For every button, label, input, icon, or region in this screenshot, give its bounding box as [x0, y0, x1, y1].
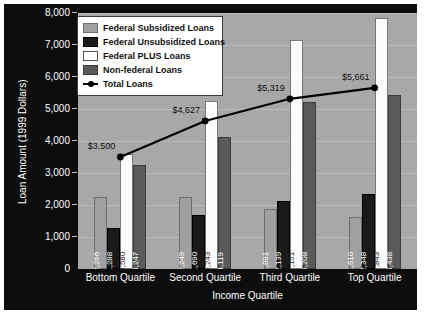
bar-value-label: $4,119	[217, 252, 225, 269]
chart-figure: Loan Amount (1999 Dollars) 01,0002,0003,…	[0, 0, 427, 323]
chart-legend: Federal Subsidized Loans Federal Unsubsi…	[77, 16, 223, 96]
chart-frame: Loan Amount (1999 Dollars) 01,0002,0003,…	[4, 4, 417, 310]
x-axis-tick-label: Bottom Quartile	[86, 272, 155, 283]
bar-value-label: $1,690	[191, 252, 199, 269]
y-axis-tick-label: 5,000	[30, 104, 70, 114]
legend-item-total-loans[interactable]: Total Loans	[83, 77, 217, 91]
line-point-value-label: $5,661	[342, 72, 370, 81]
y-axis-tick-label: 4,000	[30, 136, 70, 146]
bar-value-label: $3,247	[132, 252, 140, 269]
legend-item-label: Federal Subsidized Loans	[103, 23, 214, 33]
bar-value-label: $1,891	[262, 252, 270, 269]
y-axis-tick-mark	[72, 140, 77, 141]
bar-value-label: $7,151	[288, 252, 296, 269]
bar-value-label: $1,288	[106, 252, 114, 269]
line-point-value-label: $5,319	[257, 83, 285, 92]
y-axis-tick-mark	[72, 12, 77, 13]
y-axis-tick-label: 2,000	[30, 200, 70, 210]
bar: $5,438	[388, 95, 401, 269]
bar: $4,119	[218, 137, 231, 269]
y-axis-tick-label: 3,000	[30, 168, 70, 178]
x-axis-tick-label: Top Quartile	[348, 272, 402, 283]
gridline	[78, 13, 417, 14]
bar-value-label: $3,580	[119, 252, 127, 269]
bar-value-label: $7,843	[373, 252, 381, 269]
legend-swatch-icon	[83, 37, 98, 47]
line-point-value-label: $3,500	[88, 142, 116, 151]
bar-value-label: $2,266	[93, 252, 101, 269]
bar-value-label: $2,139	[275, 252, 283, 269]
y-axis-tick-label: 7,000	[30, 40, 70, 50]
x-axis-title: Income Quartile	[78, 290, 417, 301]
bar-value-label: $2,249	[178, 252, 186, 269]
legend-line-marker-icon	[83, 79, 98, 89]
bar: $7,843	[375, 18, 388, 269]
line-point-value-label: $4,627	[173, 105, 201, 114]
y-axis-tick-label: 0	[30, 264, 70, 274]
legend-item-non-federal-loans[interactable]: Non-federal Loans	[83, 63, 217, 77]
legend-item-federal-subsidized-loans[interactable]: Federal Subsidized Loans	[83, 21, 217, 35]
bar-value-label: $5,438	[386, 252, 394, 269]
y-axis-tick-mark	[72, 204, 77, 205]
gridline	[78, 141, 417, 142]
legend-item-label: Federal PLUS Loans	[103, 51, 191, 61]
x-axis-tick-label: Third Quartile	[260, 272, 321, 283]
bar-value-label: $1,610	[347, 252, 355, 269]
legend-item-federal-plus-loans[interactable]: Federal PLUS Loans	[83, 49, 217, 63]
bar-value-label: $2,348	[360, 252, 368, 269]
x-axis-tick-label: Second Quartile	[169, 272, 241, 283]
y-axis-tick-label: 6,000	[30, 72, 70, 82]
bar-value-label: $5,208	[301, 252, 309, 269]
y-axis-tick-label: 1,000	[30, 232, 70, 242]
bar: $5,208	[303, 102, 316, 269]
bar: $7,151	[290, 40, 303, 269]
bar: $5,243	[205, 101, 218, 269]
bar: $3,247	[133, 165, 146, 269]
legend-item-federal-unsubsidized-loans[interactable]: Federal Unsubsidized Loans	[83, 35, 217, 49]
legend-item-label: Federal Unsubsidized Loans	[103, 37, 225, 47]
legend-swatch-icon	[83, 51, 98, 61]
y-axis-tick-label: 8,000	[30, 8, 70, 18]
legend-swatch-icon	[83, 65, 98, 75]
y-axis-tick-mark	[72, 108, 77, 109]
legend-item-label: Total Loans	[103, 79, 153, 89]
legend-swatch-icon	[83, 23, 98, 33]
bar-value-label: $5,243	[204, 252, 212, 269]
y-axis-tick-mark	[72, 236, 77, 237]
y-axis-tick-mark	[72, 172, 77, 173]
gridline	[78, 109, 417, 110]
legend-item-label: Non-federal Loans	[103, 65, 182, 75]
